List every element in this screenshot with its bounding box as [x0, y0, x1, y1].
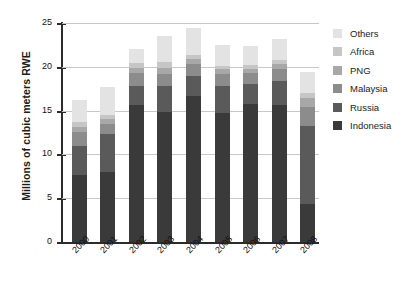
- y-tick-label: 25: [18, 17, 52, 27]
- legend-item[interactable]: PNG: [333, 61, 413, 80]
- legend-label: Africa: [350, 47, 374, 57]
- legend-swatch-icon: [333, 84, 342, 93]
- bar-stack[interactable]: [272, 39, 287, 242]
- bar-segment[interactable]: [100, 87, 115, 115]
- bar-segment[interactable]: [129, 86, 144, 105]
- bar-segment[interactable]: [72, 100, 87, 122]
- stacked-bar-chart: Millions of cubic meters RWE 0510152025 …: [0, 0, 413, 285]
- y-tick-label: 20: [18, 61, 52, 71]
- legend-swatch-icon: [333, 29, 342, 38]
- bar-stack[interactable]: [243, 46, 258, 242]
- bar-segment[interactable]: [300, 107, 315, 126]
- plot-area: [62, 23, 319, 242]
- legend-label: Indonesia: [350, 121, 391, 131]
- bar-stack[interactable]: [72, 100, 87, 242]
- legend-item[interactable]: Indonesia: [333, 117, 413, 136]
- bar-segment[interactable]: [157, 36, 172, 62]
- legend-label: Others: [350, 29, 379, 39]
- bar-segment[interactable]: [72, 132, 87, 146]
- bar-segment[interactable]: [243, 84, 258, 104]
- legend: OthersAfricaPNGMalaysiaRussiaIndonesia: [333, 24, 413, 135]
- bar-segment[interactable]: [272, 81, 287, 106]
- legend-swatch-icon: [333, 121, 342, 130]
- bar-segment[interactable]: [129, 105, 144, 242]
- bar-segment[interactable]: [215, 86, 230, 113]
- legend-swatch-icon: [333, 66, 342, 75]
- legend-label: PNG: [350, 66, 371, 76]
- bar-segment[interactable]: [100, 124, 115, 135]
- legend-item[interactable]: Russia: [333, 98, 413, 117]
- bar-segment[interactable]: [157, 74, 172, 86]
- legend-item[interactable]: Malaysia: [333, 80, 413, 99]
- bar-stack[interactable]: [100, 87, 115, 242]
- legend-item[interactable]: Africa: [333, 43, 413, 62]
- bar-segment[interactable]: [129, 49, 144, 63]
- y-tick-label: 5: [18, 192, 52, 202]
- legend-swatch-icon: [333, 47, 342, 56]
- bar-segment[interactable]: [72, 175, 87, 242]
- bar-segment[interactable]: [215, 113, 230, 242]
- bar-segment[interactable]: [272, 105, 287, 242]
- bar-segment[interactable]: [272, 69, 287, 80]
- bar-segment[interactable]: [300, 98, 315, 108]
- bar-segment[interactable]: [243, 73, 258, 84]
- bar-segment[interactable]: [100, 134, 115, 172]
- bar-segment[interactable]: [157, 86, 172, 112]
- bar-stack[interactable]: [157, 36, 172, 242]
- bar-segment[interactable]: [215, 45, 230, 66]
- y-tick-label: 10: [18, 148, 52, 158]
- bar-stack[interactable]: [129, 49, 144, 242]
- y-tick-label: 0: [18, 236, 52, 246]
- bar-segment[interactable]: [300, 126, 315, 204]
- bar-segment[interactable]: [157, 112, 172, 242]
- bar-stack[interactable]: [300, 72, 315, 242]
- bar-segment[interactable]: [243, 104, 258, 242]
- gridline: [62, 23, 319, 24]
- bar-segment[interactable]: [186, 76, 201, 95]
- y-tick-mark: [57, 242, 66, 244]
- legend-item[interactable]: Others: [333, 24, 413, 43]
- bar-stack[interactable]: [186, 28, 201, 242]
- legend-label: Russia: [350, 103, 379, 113]
- bar-segment[interactable]: [129, 73, 144, 86]
- bar-segment[interactable]: [272, 39, 287, 60]
- bar-segment[interactable]: [215, 74, 230, 86]
- legend-swatch-icon: [333, 103, 342, 112]
- bar-segment[interactable]: [186, 64, 201, 76]
- bar-segment[interactable]: [186, 28, 201, 54]
- bar-segment[interactable]: [186, 96, 201, 242]
- y-tick-label: 15: [18, 105, 52, 115]
- bar-stack[interactable]: [215, 45, 230, 242]
- bar-segment[interactable]: [300, 72, 315, 93]
- bar-segment[interactable]: [243, 46, 258, 65]
- legend-label: Malaysia: [350, 84, 388, 94]
- bar-segment[interactable]: [72, 146, 87, 175]
- bar-segment[interactable]: [100, 172, 115, 242]
